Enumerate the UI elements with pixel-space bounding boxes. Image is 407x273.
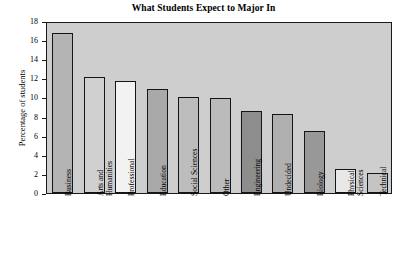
x-axis-tick-label-line: Arts and (96, 170, 105, 196)
x-axis-tick-label: Technical (380, 167, 389, 196)
x-axis-tick-label-line: Social Sciences (190, 149, 199, 196)
x-axis-tick-label-line: Biology (316, 172, 325, 196)
y-axis-tick-label: 12 (30, 73, 38, 84)
bar-chart-figure: What Students Expect to Major In Percent… (0, 0, 407, 273)
y-axis-tick-label: 10 (30, 92, 38, 103)
y-axis-tick-mark (42, 194, 46, 195)
chart-title: What Students Expect to Major In (0, 2, 407, 14)
x-axis-tick-label: Biology (317, 172, 326, 196)
x-axis-tick-label-line: Engineering (253, 159, 262, 196)
x-axis-tick-label-line: Education (159, 165, 168, 196)
x-axis-tick-label: Social Sciences (191, 149, 200, 196)
x-axis-tick-label: Undecided (285, 163, 294, 196)
y-axis-tick-label: 16 (30, 35, 38, 46)
y-axis-tick-label: 14 (30, 54, 38, 65)
x-axis-tick-label-line: Other (222, 179, 231, 196)
x-axis-tick-label: Education (160, 165, 169, 196)
x-axis-tick-label: Business (65, 169, 74, 196)
y-axis-tick-label: 2 (34, 169, 38, 180)
y-axis-tick-label: 6 (34, 131, 38, 142)
y-axis-tick-label: 8 (34, 112, 38, 123)
x-axis-tick-label: Other (223, 179, 232, 196)
y-axis-tick-label: 18 (30, 16, 38, 27)
x-axis-tick-label-line: Business (64, 169, 73, 196)
x-axis-tick-label: PhysicalSciences (348, 169, 365, 196)
y-axis-title: Percentage of students (17, 38, 27, 178)
x-axis-tick-label: Professional (128, 158, 137, 196)
x-axis-tick-label-line: Professional (127, 158, 136, 196)
x-axis-tick-label-line: Humanities (105, 161, 114, 196)
x-axis-tick-label: Arts andHumanities (97, 161, 114, 196)
y-axis-tick-label: 0 (34, 188, 38, 199)
y-axis-tick-label: 4 (34, 150, 38, 161)
x-axis-tick-label-line: Sciences (357, 169, 366, 196)
x-axis-tick-label-line: Undecided (284, 163, 293, 196)
x-axis-tick-label: Engineering (254, 159, 263, 196)
x-axis-tick-label-line: Technical (379, 167, 388, 196)
x-axis-tick-label-line: Physical (347, 170, 356, 196)
